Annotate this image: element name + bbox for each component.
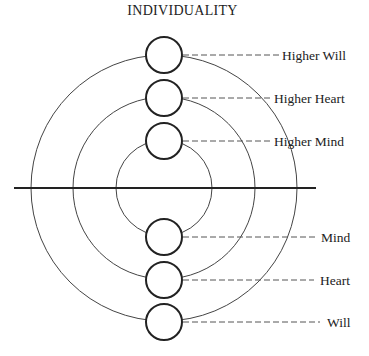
heart-label: Heart — [320, 273, 350, 288]
higher-heart-circle — [146, 80, 182, 116]
heart-circle — [146, 262, 182, 298]
higher-mind-label: Higher Mind — [274, 134, 344, 149]
node-mind: Mind — [146, 219, 351, 255]
concentric-diagram: Higher WillHigher HeartHigher MindMindHe… — [0, 0, 369, 356]
will-label: Will — [327, 315, 351, 330]
node-heart: Heart — [146, 262, 350, 298]
node-higher-will: Higher Will — [146, 37, 346, 73]
higher-mind-circle — [146, 123, 182, 159]
higher-heart-label: Higher Heart — [274, 91, 345, 106]
mind-circle — [146, 219, 182, 255]
mind-label: Mind — [321, 230, 351, 245]
node-higher-heart: Higher Heart — [146, 80, 345, 116]
higher-will-label: Higher Will — [282, 48, 346, 63]
node-will: Will — [146, 304, 351, 340]
will-circle — [146, 304, 182, 340]
node-higher-mind: Higher Mind — [146, 123, 344, 159]
higher-will-circle — [146, 37, 182, 73]
